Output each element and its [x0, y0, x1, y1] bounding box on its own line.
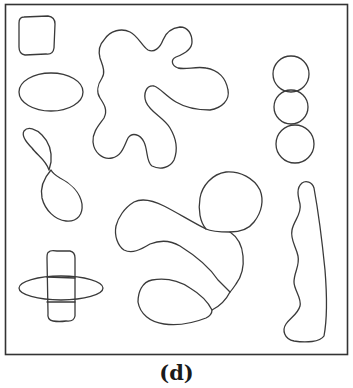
ellipse-shape: [19, 73, 83, 111]
cross-vertical-bar: [47, 251, 75, 322]
chain-circle-bottom: [276, 125, 314, 163]
figure-eight-top-lobe: [23, 128, 51, 170]
figure-caption: (d): [0, 360, 353, 385]
cross-horizontal-ellipse: [19, 276, 103, 300]
star-blob-shape: [93, 27, 228, 168]
cross-divider-top: [47, 277, 75, 278]
cluster-right-contour: [212, 232, 243, 310]
wavy-vertical-strip: [284, 182, 326, 342]
chain-circle-middle: [274, 90, 308, 124]
chain-circle-top: [273, 56, 309, 92]
cluster-bottom-lobe: [138, 279, 212, 324]
contour-canvas: [0, 0, 353, 388]
cluster-circle: [199, 172, 262, 232]
figure-panel: (d): [0, 0, 353, 388]
cluster-upper-arm: [115, 200, 230, 292]
figure-eight-bottom-lobe: [41, 170, 82, 221]
rounded-square-shape: [19, 16, 55, 55]
